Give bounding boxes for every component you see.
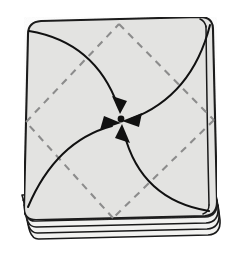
center-convergence-dot [118, 116, 125, 123]
origami-diagram [0, 0, 233, 264]
origami-illustration [0, 0, 233, 264]
